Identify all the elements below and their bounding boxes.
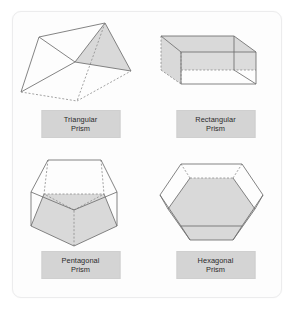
rectangular-prism-back-face — [181, 52, 256, 70]
label-triangular-prism: Triangular Prism — [41, 110, 120, 138]
label-rectangular-prism: Rectangular Prism — [176, 110, 255, 138]
figure-cell-hexagonal-prism: Hexagonal Prism — [148, 152, 283, 295]
label-line-2: Prism — [181, 265, 250, 274]
prisms-card: Triangular Prism — [12, 11, 282, 298]
label-line-2: Prism — [46, 265, 115, 274]
pentagonal-prism-illustration — [13, 152, 148, 260]
hexagonal-prism-front-face — [168, 178, 255, 240]
label-line-1: Hexagonal — [181, 256, 250, 265]
label-line-1: Triangular — [46, 115, 115, 124]
label-line-2: Prism — [46, 124, 115, 133]
label-hexagonal-prism: Hexagonal Prism — [176, 251, 255, 279]
label-pentagonal-prism: Pentagonal Prism — [41, 251, 120, 279]
label-line-1: Rectangular — [181, 115, 250, 124]
label-line-2: Prism — [181, 124, 250, 133]
label-line-1: Pentagonal — [46, 256, 115, 265]
rectangular-prism-illustration — [148, 14, 283, 122]
figure-cell-rectangular-prism: Rectangular Prism — [148, 14, 283, 157]
hexagonal-prism-hidden-edges — [181, 164, 242, 178]
triangular-prism-shaded-face — [75, 23, 131, 71]
hexagonal-prism-illustration — [148, 152, 283, 260]
figure-cell-triangular-prism: Triangular Prism — [13, 14, 148, 157]
figure-cell-pentagonal-prism: Pentagonal Prism — [13, 152, 148, 295]
triangular-prism-illustration — [13, 14, 148, 122]
